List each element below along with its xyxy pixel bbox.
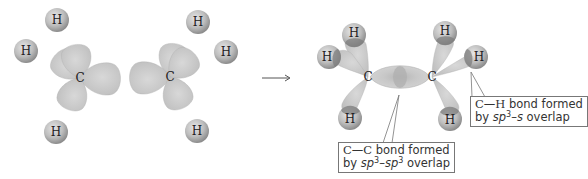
bond-dash: —	[484, 97, 496, 111]
carbon-label: C	[363, 70, 372, 84]
hydrogen-label: H	[221, 45, 231, 59]
ethane-molecule: H H H H H H C C	[317, 21, 488, 131]
orbital-symbol: sp	[493, 110, 506, 124]
atom-symbol: C	[343, 143, 352, 157]
callout-text: bond formed	[372, 143, 449, 157]
orbital-symbol: sp	[361, 156, 374, 170]
hydrogen-atom: H	[186, 10, 210, 34]
orbital-symbol: sp	[385, 156, 398, 170]
hydrogen-atom: H	[464, 45, 488, 69]
bond-dash: —	[352, 143, 364, 157]
methyl-fragment-right: C H H H	[129, 10, 238, 143]
hydrogen-label: H	[52, 13, 62, 27]
hydrogen-label: H	[192, 124, 202, 138]
hydrogen-label: H	[193, 15, 203, 29]
hydrogen-atom: H	[438, 107, 462, 131]
hydrogen-atom: H	[214, 40, 238, 64]
callout-text: overlap	[403, 156, 450, 170]
hydrogen-atom: H	[317, 45, 341, 69]
hydrogen-atom: H	[342, 23, 366, 47]
hydrogen-label: H	[51, 125, 61, 139]
hydrogen-atom: H	[433, 21, 457, 45]
atom-symbol: C	[363, 143, 372, 157]
hydrogen-label: H	[474, 50, 484, 64]
callout-line-2: by sp3–sp3 overlap	[343, 157, 450, 170]
callout-text: by	[475, 110, 493, 124]
methyl-fragment-left: C H H H	[14, 8, 121, 144]
callout-line-2: by sp3–s overlap	[475, 111, 583, 124]
reaction-arrow-icon	[262, 75, 290, 81]
hydrogen-label: H	[349, 26, 359, 40]
hydrogen-atom: H	[185, 119, 209, 143]
atom-symbol: C	[475, 97, 484, 111]
callout-ch-bond: C—H bond formed by sp3–s overlap	[470, 96, 588, 127]
callout-cc-bond: C—C bond formed by sp3–sp3 overlap	[338, 142, 455, 173]
cc-overlap-region	[393, 66, 407, 88]
callout-text: overlap	[523, 110, 570, 124]
carbon-label: C	[165, 70, 174, 84]
hydrogen-atom: H	[338, 106, 362, 130]
atom-symbol: H	[495, 97, 505, 111]
callout-pointer-ch	[471, 72, 485, 97]
callout-pointer-cc	[383, 95, 399, 143]
hydrogen-atom: H	[45, 8, 69, 32]
hydrogen-label: H	[21, 44, 31, 58]
hydrogen-label: H	[440, 24, 450, 38]
hydrogen-label: H	[345, 112, 355, 126]
hydrogen-label: H	[322, 50, 332, 64]
hydrogen-atom: H	[44, 120, 68, 144]
carbon-label: C	[75, 71, 84, 85]
callout-text: bond formed	[505, 97, 582, 111]
hydrogen-label: H	[445, 113, 455, 127]
callout-text: by	[343, 156, 361, 170]
carbon-label: C	[427, 70, 436, 84]
hydrogen-atom: H	[14, 39, 38, 63]
